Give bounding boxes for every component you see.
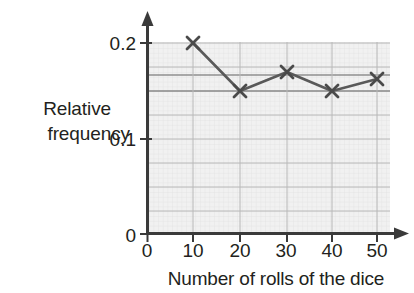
- relative-frequency-line-chart: Relative frequency 0.2 0.1 0 0 10 20 30 …: [0, 0, 414, 293]
- x-axis-ticks: [148, 234, 378, 242]
- minor-gridlines: [148, 42, 390, 234]
- plot-area: [0, 0, 414, 293]
- x-axis-arrow-icon: [394, 228, 409, 240]
- y-axis-arrow-icon: [142, 11, 154, 26]
